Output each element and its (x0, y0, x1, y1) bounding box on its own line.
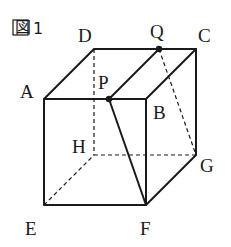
label-F: F (140, 218, 151, 239)
figure-caption: 図 1 (13, 18, 43, 38)
segment-PQ (109, 49, 159, 99)
label-Q: Q (150, 21, 164, 42)
right-face-edges (146, 49, 196, 205)
label-B: B (153, 102, 166, 123)
label-D: D (78, 25, 92, 46)
caption-number: 1 (33, 19, 43, 38)
point-P-marker (106, 96, 112, 102)
point-Q-marker (156, 46, 162, 52)
caption-kanji: 図 (15, 18, 31, 37)
label-A: A (20, 81, 34, 102)
label-P: P (98, 72, 109, 93)
label-C: C (198, 25, 211, 46)
cube-diagram: 図 1 A B C D E F G H P Q (0, 0, 231, 247)
label-G: G (200, 155, 214, 176)
segment-PF (109, 99, 146, 205)
label-E: E (25, 218, 37, 239)
label-H: H (72, 136, 86, 157)
edge-EH (44, 155, 94, 205)
